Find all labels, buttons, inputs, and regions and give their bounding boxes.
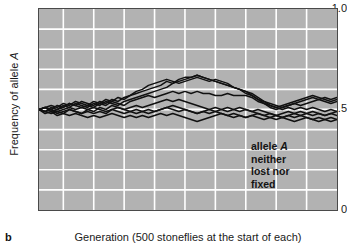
y-axis-label: Frequency of allele A <box>8 24 20 184</box>
y-axis-label-text: Frequency of allele <box>8 60 20 156</box>
y-axis-label-allele: A <box>8 52 20 59</box>
panel-letter: b <box>5 231 12 243</box>
annotation-allele-letter: A <box>280 140 288 152</box>
data-lines <box>39 75 337 121</box>
annotation-line-4: fixed <box>251 178 290 191</box>
figure-panel-b: Frequency of allele A 1.0 0.5 0 Generati… <box>0 0 347 246</box>
annotation-text: allele A neither lost nor fixed <box>251 140 290 190</box>
annotation-allele-word: allele <box>251 140 280 152</box>
annotation-line-3: lost nor <box>251 165 290 178</box>
x-axis-label: Generation (500 stoneflies at the start … <box>38 231 338 243</box>
annotation-line-2: neither <box>251 153 290 166</box>
chart-svg <box>39 9 337 210</box>
annotation-line-1: allele A <box>251 140 290 153</box>
plot-area <box>38 8 338 211</box>
